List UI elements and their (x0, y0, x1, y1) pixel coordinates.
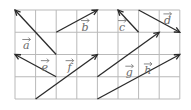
vector-label-a: a (22, 37, 30, 52)
vector-label-c: c (118, 19, 126, 34)
vector-label-b: b (81, 19, 89, 34)
vector-label-g: g (125, 64, 133, 79)
vector-label-d: d (163, 12, 171, 27)
vector-grid-diagram: abcdefgh (0, 0, 191, 110)
vector-label-e: e (41, 59, 49, 74)
vector-label-h: h (144, 62, 152, 77)
vector-label-text: e (42, 61, 49, 74)
vector-label-f: f (66, 59, 74, 74)
vector-labels: abcdefgh (22, 12, 171, 79)
